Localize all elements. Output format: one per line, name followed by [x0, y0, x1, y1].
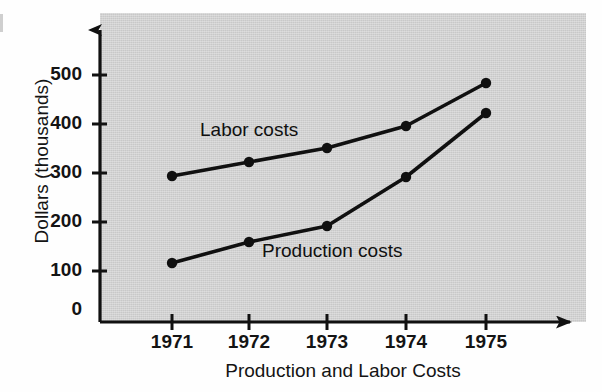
labor-costs-point [481, 78, 491, 88]
x-axis-title: Production and Labor Costs [100, 360, 586, 382]
labor-costs-point [244, 157, 254, 167]
production-costs-point [167, 258, 177, 268]
production-costs-point [244, 237, 254, 247]
y-tick-label-100: 100 [24, 259, 82, 281]
labor-costs-point [322, 143, 332, 153]
y-axis-title: Dollars (thousands) [31, 61, 53, 261]
production-costs-point [401, 172, 411, 182]
y-tick-label-0: 0 [24, 298, 82, 320]
production-costs-point [481, 108, 491, 118]
x-tick-label-1973: 1973 [292, 331, 362, 353]
x-tick-label-1972: 1972 [214, 331, 284, 353]
x-tick-label-1974: 1974 [371, 331, 441, 353]
series-annotation-production-costs: Production costs [262, 240, 402, 262]
chart-figure: 500 400 300 200 100 0 1971 1972 1973 197… [0, 0, 602, 392]
x-tick-label-1971: 1971 [137, 331, 207, 353]
labor-costs-point [401, 121, 411, 131]
series-annotation-labor-costs: Labor costs [200, 119, 298, 141]
production-costs-point [322, 221, 332, 231]
x-tick-label-1975: 1975 [451, 331, 521, 353]
labor-costs-point [167, 171, 177, 181]
